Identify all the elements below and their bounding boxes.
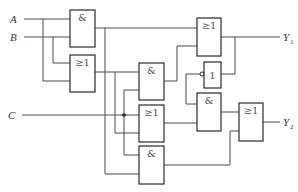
svg-text:&: & [147,65,156,76]
wire-g1-to-g5 [105,28,139,174]
svg-text:≥1: ≥1 [244,105,259,116]
svg-text:1: 1 [209,70,215,81]
wire-g6-g7 [221,37,235,74]
gate-and-1: & [70,10,95,47]
gate-and-8: & [197,93,221,131]
gate-or-6: ≥1 [197,18,221,56]
svg-text:&: & [205,95,214,106]
gate-or-9: ≥1 [239,103,263,141]
wire-g3-to-g6 [164,46,197,81]
svg-text:≥1: ≥1 [75,57,90,68]
wire-c-to-g5 [124,115,139,155]
svg-text:&: & [147,148,156,159]
label-input-a: A [9,13,17,25]
wire-g2-to-g4 [115,72,139,133]
label-output-y1-sub: 1 [290,38,294,46]
label-input-b: B [10,31,17,43]
wire-g5-to-g9 [164,131,239,165]
svg-text:≥1: ≥1 [202,20,217,31]
gate-not-7: 1 [200,62,221,88]
inverter-bubble-icon [200,72,204,76]
gate-or-2: ≥1 [70,55,95,92]
wire-b-to-g2 [53,37,70,63]
label-output-y2-sub: 2 [290,123,294,131]
wire-c-to-g3 [124,90,139,115]
svg-text:&: & [78,12,87,23]
label-input-c: C [8,109,16,121]
wire-a-to-g2 [43,19,70,81]
gate-and-5: & [139,146,164,184]
gate-and-3: & [139,63,164,100]
gate-or-4: ≥1 [139,105,164,142]
svg-text:≥1: ≥1 [144,107,159,118]
logic-circuit-diagram: & ≥1 & ≥1 & ≥1 1 & ≥1 A B C Y 1 Y 2 [0,0,298,192]
